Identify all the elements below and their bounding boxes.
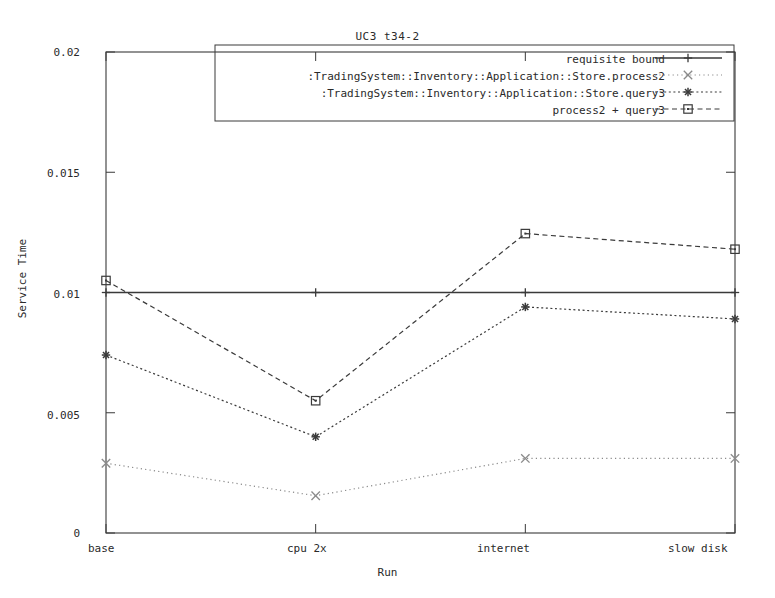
legend-keys [215,45,734,121]
series-2 [102,303,739,441]
series-0 [102,288,739,296]
data-series-group [102,229,739,500]
series-1 [102,454,739,500]
series-3 [102,229,739,405]
plot-area [0,0,775,598]
chart-container: UC3 t34-2 Service Time Run 0.02 0.015 0.… [0,0,775,598]
